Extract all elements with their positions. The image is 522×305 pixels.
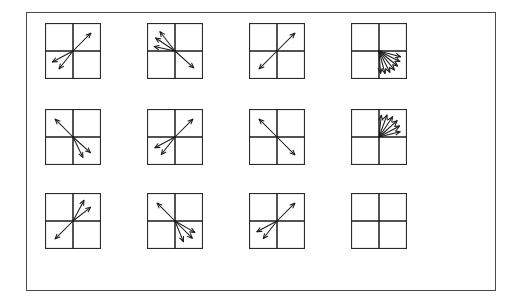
quadrant-panel (45, 109, 101, 165)
quadrant-panel (45, 193, 101, 249)
quadrant-panel (351, 109, 407, 165)
quadrant-panel (351, 193, 407, 249)
quadrant-panel (147, 109, 203, 165)
quadrant-panel (249, 109, 305, 165)
quadrant-panel (249, 23, 305, 79)
quadrant-panel (147, 23, 203, 79)
figure-frame (26, 12, 496, 291)
quadrant-panel (249, 193, 305, 249)
figure-root (0, 0, 522, 305)
quadrant-panel (147, 193, 203, 249)
quadrant-panel (45, 23, 101, 79)
panel-grid (27, 13, 495, 290)
quadrant-panel (351, 23, 407, 79)
